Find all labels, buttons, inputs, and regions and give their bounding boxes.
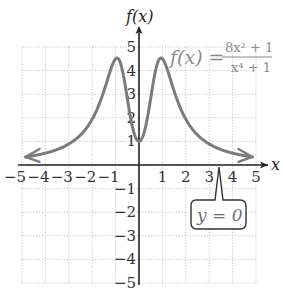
function-graph: −5−4−3−2−11234554321−1−2−3−4−5 f(x) x f(… — [0, 0, 284, 297]
y-tick-label: 5 — [126, 38, 136, 56]
equation-numerator: 8x² + 1 — [225, 40, 273, 55]
x-axis-label: x — [271, 155, 280, 174]
equation-lhs: f(x) = — [168, 46, 225, 68]
y-tick-label: −4 — [114, 250, 136, 268]
x-tick-label: −5 — [4, 168, 26, 186]
x-tick-label: 4 — [228, 168, 238, 186]
y-tick-label: −5 — [114, 274, 136, 292]
callout-text: y = 0 — [196, 205, 243, 225]
x-tick-label: 3 — [204, 168, 214, 186]
y-tick-label: −3 — [114, 227, 136, 245]
x-tick-label: 1 — [158, 168, 168, 186]
x-tick-label: −4 — [27, 168, 49, 186]
y-tick-label: −1 — [114, 180, 136, 198]
equation-label: f(x) = 8x² + 1 x⁴ + 1 — [168, 40, 273, 75]
y-tick-label: 4 — [126, 62, 136, 80]
equation-denominator: x⁴ + 1 — [231, 60, 271, 75]
asymptote-callout: y = 0 — [191, 167, 246, 229]
x-tick-label: −2 — [74, 168, 96, 186]
y-axis-label: f(x) — [125, 7, 153, 26]
x-tick-label: 5 — [251, 168, 261, 186]
y-tick-label: −2 — [114, 203, 136, 221]
x-tick-label: 2 — [181, 168, 191, 186]
x-tick-label: −3 — [51, 168, 73, 186]
